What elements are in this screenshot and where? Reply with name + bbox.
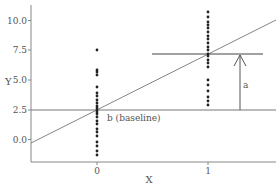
y-axis-label: Y	[4, 76, 12, 87]
x-tick-label: 1	[205, 166, 211, 176]
y-tick-label: 5.0	[13, 75, 28, 85]
effect-label: a	[243, 80, 249, 90]
y-tick-label: 10.0	[7, 16, 27, 26]
x-axis-label: X	[145, 174, 153, 185]
y-tick-label: 2.5	[13, 105, 28, 115]
baseline-label: b (baseline)	[107, 113, 161, 123]
regression-line	[31, 20, 276, 143]
points-group-0	[96, 49, 99, 157]
scatter-chart: 0.0 2.5 5.0 7.5 10.0 0 1 Y X a b (baseli…	[0, 0, 280, 189]
x-tick-label: 0	[94, 166, 100, 176]
points-group-1	[207, 11, 210, 107]
y-tick-label: 7.5	[13, 45, 28, 55]
y-tick-label: 0.0	[13, 135, 28, 145]
chart-canvas: 0.0 2.5 5.0 7.5 10.0 0 1 Y X a b (baseli…	[0, 0, 280, 189]
